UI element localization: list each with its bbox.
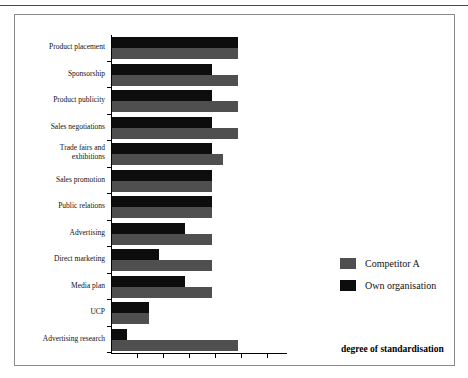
bar-own-organisation xyxy=(112,90,212,101)
legend-label-own-organisation: Own organisation xyxy=(365,280,436,291)
category-label: Advertising research xyxy=(17,334,105,343)
chart-legend: Competitor A Own organisation xyxy=(340,258,436,302)
category-label: Product publicity xyxy=(17,95,105,104)
bar-own-organisation xyxy=(112,223,185,234)
bar-competitor-a xyxy=(112,313,149,324)
page-top-rule xyxy=(0,5,468,6)
bar-row: Sales negotiations xyxy=(111,115,361,142)
own-organisation-swatch xyxy=(340,280,356,291)
plot-area: Product placementSponsorshipProduct publ… xyxy=(111,35,361,355)
bar-competitor-a xyxy=(112,75,238,86)
category-label: UCP xyxy=(17,307,105,316)
bar-competitor-a xyxy=(112,48,238,59)
value-axis-tick xyxy=(241,354,242,358)
value-axis-tick xyxy=(137,354,138,358)
bar-row: Product placement xyxy=(111,35,361,62)
category-label: Public relations xyxy=(17,201,105,210)
legend-label-competitor-a: Competitor A xyxy=(365,258,420,269)
bar-own-organisation xyxy=(112,302,149,313)
category-label: Product placement xyxy=(17,42,105,51)
bar-row: Advertising xyxy=(111,221,361,248)
bar-row: Sales promotion xyxy=(111,168,361,195)
bar-row: Product publicity xyxy=(111,88,361,115)
x-axis-caption: degree of standardisation xyxy=(341,344,444,354)
category-label: Advertising xyxy=(17,228,105,237)
category-label: Media plan xyxy=(17,281,105,290)
bar-competitor-a xyxy=(112,340,238,351)
value-axis-tick xyxy=(189,354,190,358)
bar-own-organisation xyxy=(112,170,212,181)
category-label: Trade fairs andexhibitions xyxy=(17,143,105,161)
value-axis-tick xyxy=(163,354,164,358)
chart-frame: Product placementSponsorshipProduct publ… xyxy=(14,14,455,366)
bar-own-organisation xyxy=(112,143,212,154)
value-axis-tick xyxy=(215,354,216,358)
bar-competitor-a xyxy=(112,287,212,298)
bar-own-organisation xyxy=(112,196,212,207)
bar-competitor-a xyxy=(112,128,238,139)
bar-row: UCP xyxy=(111,300,361,327)
category-label: Sales promotion xyxy=(17,175,105,184)
category-label: Sales negotiations xyxy=(17,122,105,131)
bar-row: Public relations xyxy=(111,194,361,221)
bar-competitor-a xyxy=(112,260,212,271)
bar-competitor-a xyxy=(112,101,238,112)
bar-own-organisation xyxy=(112,37,238,48)
bar-row: Trade fairs andexhibitions xyxy=(111,141,361,168)
category-tick xyxy=(107,352,111,353)
bar-competitor-a xyxy=(112,181,212,192)
category-label: Sponsorship xyxy=(17,69,105,78)
legend-item-own-organisation: Own organisation xyxy=(340,280,436,291)
bar-rows: Product placementSponsorshipProduct publ… xyxy=(111,35,361,353)
bar-own-organisation xyxy=(112,64,212,75)
bar-competitor-a xyxy=(112,234,212,245)
value-axis-tick xyxy=(267,354,268,358)
bar-row: Direct marketing xyxy=(111,247,361,274)
legend-item-competitor-a: Competitor A xyxy=(340,258,436,269)
bar-competitor-a xyxy=(112,207,212,218)
competitor-a-swatch xyxy=(340,258,356,269)
bar-own-organisation xyxy=(112,276,185,287)
bar-row: Advertising research xyxy=(111,327,361,354)
bar-own-organisation xyxy=(112,329,127,340)
bar-competitor-a xyxy=(112,154,223,165)
bar-own-organisation xyxy=(112,117,212,128)
bar-row: Media plan xyxy=(111,274,361,301)
category-label: Direct marketing xyxy=(17,254,105,263)
bar-row: Sponsorship xyxy=(111,62,361,89)
bar-own-organisation xyxy=(112,249,159,260)
